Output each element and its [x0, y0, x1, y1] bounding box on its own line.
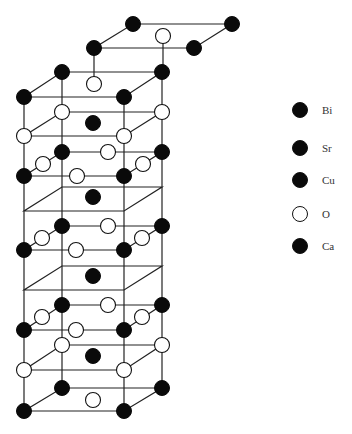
bonds	[24, 24, 232, 411]
legend-label: Sr	[322, 142, 332, 154]
legend-item-bi: Bi	[292, 100, 332, 120]
legend-label: Bi	[322, 104, 332, 116]
bi-atom-icon	[292, 102, 308, 118]
atoms-filled	[17, 17, 240, 419]
legend-label: O	[322, 208, 330, 220]
legend-item-ca: Ca	[292, 236, 334, 256]
legend-label: Cu	[322, 174, 335, 186]
legend-item-sr: Sr	[292, 138, 332, 158]
legend-item-cu: Cu	[292, 170, 335, 190]
sr-atom-icon	[292, 140, 308, 156]
legend-label: Ca	[322, 240, 334, 252]
ca-atom-icon	[292, 238, 308, 254]
o-atom-icon	[292, 206, 308, 222]
cu-atom-icon	[292, 172, 308, 188]
legend-item-o: O	[292, 204, 330, 224]
